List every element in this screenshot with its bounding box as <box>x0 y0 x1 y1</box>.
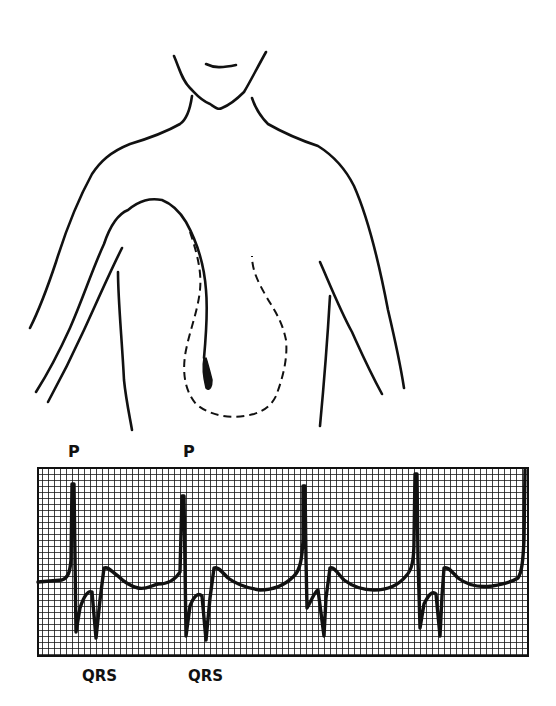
torso-illustration <box>30 52 404 430</box>
arm-inner <box>48 248 122 402</box>
torso-right <box>320 262 382 394</box>
ecg-strip <box>38 468 528 656</box>
qrs-label-1: QRS <box>82 667 117 685</box>
p-wave-label-2: P <box>183 442 195 461</box>
heart-outline <box>184 232 286 417</box>
qrs-label-2: QRS <box>188 667 223 685</box>
catheter-tip <box>203 358 212 389</box>
neck-left <box>30 96 192 328</box>
diagram: P P QRS QRS <box>0 0 556 706</box>
arm-outer <box>36 199 207 392</box>
p-wave-label-1: P <box>68 442 80 461</box>
chin-mark <box>206 64 236 67</box>
ecg-grid <box>38 468 528 656</box>
torso-right-inner <box>320 296 330 426</box>
torso-left <box>118 272 132 430</box>
